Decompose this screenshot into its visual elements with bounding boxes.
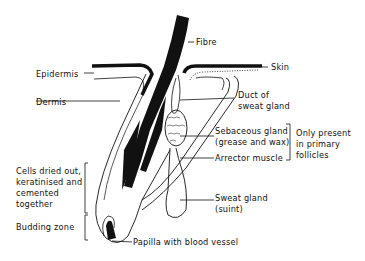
label-cells-4: together <box>16 199 53 209</box>
sebaceous-gland <box>165 110 187 146</box>
label-papilla: Papilla with blood vessel <box>133 237 238 247</box>
label-cells-1: Cells dried out, <box>16 166 81 176</box>
sweat-gland <box>166 148 187 218</box>
label-skin: Skin <box>271 62 289 72</box>
skin-surface-right <box>184 66 262 73</box>
label-sebaceous-1: Sebaceous gland <box>215 126 288 136</box>
label-primary-1: Only present <box>296 128 351 138</box>
follicle-diagram: Fibre Skin Epidermis Dermis Duct of swea… <box>0 0 365 261</box>
label-cells-2: keratinised and <box>16 177 82 187</box>
label-dermis: Dermis <box>36 97 66 107</box>
label-cells-3: cemented <box>16 188 59 198</box>
label-fibre: Fibre <box>196 37 217 47</box>
label-sweat-1: Sweat gland <box>215 193 268 203</box>
label-sebaceous-2: (grease and wax) <box>215 137 290 147</box>
label-primary-3: follicles <box>296 150 329 160</box>
label-arrector: Arrector muscle <box>215 153 283 163</box>
label-duct-1: Duct of <box>238 90 269 100</box>
label-duct-2: sweat gland <box>238 101 290 111</box>
label-sweat-2: (suint) <box>215 204 243 214</box>
label-primary-2: in primary <box>296 139 340 149</box>
label-epidermis: Epidermis <box>36 69 78 79</box>
label-budding: Budding zone <box>16 222 74 232</box>
